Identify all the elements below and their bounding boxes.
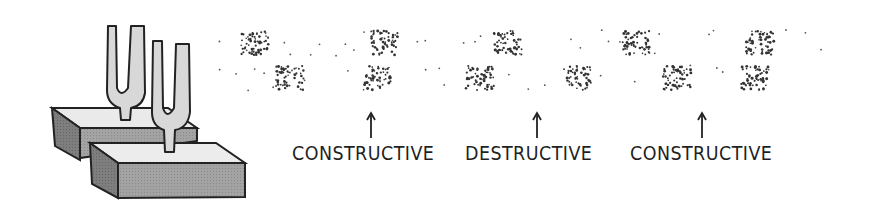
back-tuning-fork: [107, 26, 145, 120]
illustration: [0, 0, 880, 204]
arrows: [367, 113, 706, 138]
sound-wave-particles: [219, 29, 822, 91]
label-constructive-1: CONSTRUCTIVE: [292, 142, 434, 164]
interference-diagram: CONSTRUCTIVE DESTRUCTIVE CONSTRUCTIVE: [0, 0, 880, 204]
label-constructive-2: CONSTRUCTIVE: [630, 142, 772, 164]
label-destructive: DESTRUCTIVE: [465, 142, 592, 164]
